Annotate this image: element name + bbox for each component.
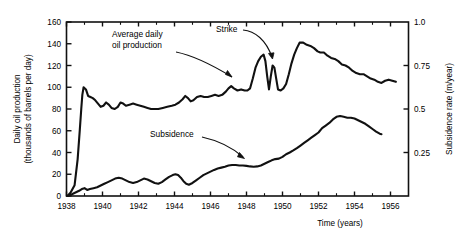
x-tick-label: 1952 [309,202,328,211]
y-axis-left-title-line2: (thousands of barrels per day) [24,54,33,163]
y2-tick-label: 0.25 [414,149,430,158]
y-axis-left-title-line1: Daily oil production [13,74,22,144]
y-tick-label: 80 [52,105,62,114]
y-tick-label: 60 [52,127,62,136]
y-tick-label: 160 [47,18,61,27]
y-tick-label: 120 [47,62,61,71]
annotation-oil-production-line1: Average daily [112,29,163,39]
annotation-arrow-oil-production [176,52,232,77]
x-tick-label: 1946 [201,202,220,211]
y-tick-label: 100 [47,83,61,92]
x-tick-label: 1938 [57,202,76,211]
y-axis-left-ticks: 020406080100120140160 [47,18,71,201]
x-tick-label: 1944 [165,202,184,211]
y-axis-right-title: Subsidence rate (m/year) [445,63,454,155]
y-tick-label: 40 [52,149,62,158]
annotation-strike: Strike [216,24,238,34]
oil-production-subsidence-chart: 1938194019421944194619481950195219541956… [0,0,468,245]
y2-tick-label: 1.0 [414,18,426,27]
chart-figure: 1938194019421944194619481950195219541956… [0,0,468,245]
x-axis-title: Time (years) [317,219,363,228]
annotation-arrow-strike [243,30,272,57]
x-tick-label: 1956 [381,202,400,211]
x-tick-label: 1942 [129,202,148,211]
y-tick-label: 140 [47,40,61,49]
x-tick-label: 1950 [273,202,292,211]
y-tick-label: 0 [56,192,61,201]
series-line-subsidence [67,116,381,196]
series-line-average-daily-oil-production [67,43,396,196]
y-tick-label: 20 [52,170,62,179]
x-tick-label: 1948 [237,202,256,211]
y-axis-right-ticks: 0.250.50.751.0 [404,18,431,158]
y2-tick-label: 0.75 [414,62,430,71]
x-tick-label: 1954 [345,202,364,211]
annotation-layer: Average dailyoil productionStrikeSubside… [112,24,274,159]
annotation-arrowhead-strike [269,53,275,59]
data-series-layer [67,43,396,196]
annotation-arrowhead-oil-production [226,71,233,78]
x-tick-label: 1940 [93,202,112,211]
annotation-oil-production-line2: oil production [112,40,162,50]
y2-tick-label: 0.5 [414,105,426,114]
annotation-arrow-subsidence [202,137,243,157]
annotation-subsidence: Subsidence [150,129,194,139]
